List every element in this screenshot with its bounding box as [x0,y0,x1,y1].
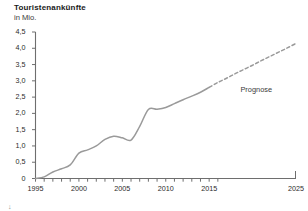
y-tick-label: 4,5 [8,28,26,36]
series-line-actual [36,87,210,178]
corner-arrow-icon: ↓ [8,203,12,210]
plot-area [0,0,308,211]
y-tick-label: 3,0 [8,77,26,85]
tourist-arrivals-chart: Touristenankünfte in Mio. 00,51,01,52,02… [0,0,308,211]
y-tick-label: 3,5 [8,61,26,69]
y-tick-label: 1,5 [8,126,26,134]
x-axis [36,171,297,182]
forecast-annotation-label: Prognose [240,85,272,94]
y-tick-label: 4,0 [8,44,26,52]
y-tick-label: 0,5 [8,158,26,166]
y-axis [32,32,36,179]
series-line-forecast [209,43,296,87]
x-tick-label: 1995 [21,185,51,193]
x-tick-label: 2025 [281,185,308,193]
x-tick-label: 2010 [151,185,181,193]
y-tick-label: 1,0 [8,142,26,150]
x-tick-label: 2015 [194,185,224,193]
x-tick-label: 2005 [107,185,137,193]
y-tick-label: 2,0 [8,109,26,117]
y-tick-label: 0 [8,175,26,183]
y-tick-label: 2,5 [8,93,26,101]
x-tick-label: 2000 [64,185,94,193]
